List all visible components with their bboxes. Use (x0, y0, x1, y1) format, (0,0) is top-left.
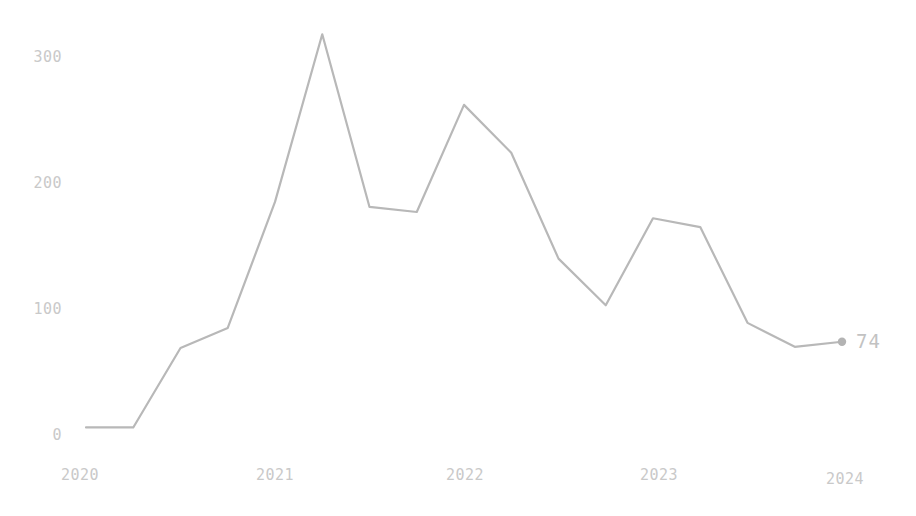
last-data-point-marker (838, 338, 846, 346)
data-series-line (86, 34, 842, 427)
plot-area (0, 0, 916, 516)
line-chart: 300 200 100 0 2020 2021 2022 2023 2024 7… (0, 0, 916, 516)
last-value-annotation: 74 (856, 330, 881, 352)
